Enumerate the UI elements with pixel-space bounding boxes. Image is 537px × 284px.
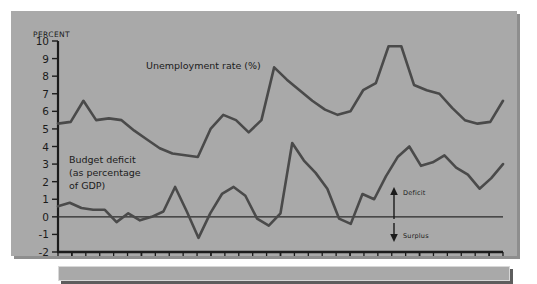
- label-deficit-direction: Deficit: [403, 189, 426, 197]
- label-surplus-direction: Surplus: [403, 232, 429, 240]
- y-axis-tick-label: 1: [42, 193, 49, 205]
- arrow-up-icon: [390, 187, 398, 219]
- y-axis-tick-label: 8: [42, 70, 49, 82]
- y-axis-tick-label: 5: [42, 123, 49, 135]
- annotation-unemployment-rate: Unemployment rate (%): [146, 60, 261, 71]
- arrow-down-icon: [390, 223, 398, 242]
- y-axis-tick-label: 7: [42, 88, 49, 100]
- y-axis-tick-labels: 109876543210-1-2: [36, 35, 50, 256]
- annotation-budget-deficit-line3: of GDP): [69, 180, 105, 191]
- y-axis-tick-label: 6: [42, 105, 49, 117]
- y-axis-tick-label: 4: [42, 141, 49, 153]
- line-chart: 109876543210-1-2 19601965197019751980198…: [11, 11, 517, 256]
- y-axis-unit-label: PERCENT: [33, 30, 70, 39]
- chart-panel: 109876543210-1-2 19601965197019751980198…: [11, 11, 517, 256]
- y-axis-tick-label: -1: [39, 228, 49, 240]
- y-axis-tick-label: 0: [42, 211, 49, 223]
- series-line-unemployment: [58, 46, 503, 157]
- y-axis-tick-label: 9: [42, 53, 49, 65]
- annotation-budget-deficit-line2: (as percentage: [69, 167, 141, 178]
- y-axis-tick-label: 3: [42, 158, 49, 170]
- annotation-budget-deficit-line1: Budget deficit: [69, 154, 136, 165]
- caption-bar: [58, 266, 510, 281]
- y-axis-tick-label: 2: [42, 176, 49, 188]
- y-axis-tick-label: -2: [39, 246, 49, 256]
